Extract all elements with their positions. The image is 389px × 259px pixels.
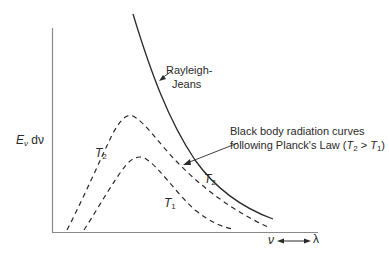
planck-gt: > bbox=[358, 139, 371, 151]
rayleigh-jeans-label: Rayleigh- Jeans bbox=[166, 63, 212, 91]
x-label-lambda: λ bbox=[313, 233, 319, 246]
planck-label-line2: following Planck's Law (T2 > T1) bbox=[230, 138, 385, 152]
rayleigh-jeans-curve bbox=[133, 14, 273, 219]
planck-label-line1: Black body radiation curves bbox=[230, 124, 385, 138]
x-direction-arrow-left bbox=[277, 239, 284, 244]
rayleigh-label-line1: Rayleigh- bbox=[166, 63, 212, 77]
t2-right-sub: 2 bbox=[211, 178, 215, 187]
planck-close: ) bbox=[381, 139, 385, 151]
y-label-tail: dν bbox=[28, 133, 44, 147]
x-label-nu: ν bbox=[268, 234, 274, 247]
planck-prefix: following Planck's Law ( bbox=[230, 139, 346, 151]
planck-T1: T bbox=[370, 139, 377, 151]
rayleigh-label-line2: Jeans bbox=[166, 77, 212, 91]
t1-sub: 1 bbox=[171, 202, 175, 211]
planck-t1-curve bbox=[84, 157, 233, 230]
y-label-E: E bbox=[16, 133, 24, 147]
planck-arrow-head bbox=[183, 159, 191, 165]
t2-left-sub: 2 bbox=[102, 152, 106, 161]
blackbody-diagram: Eν dν Rayleigh- Jeans Black body radiati… bbox=[0, 0, 389, 259]
t1-label: T1 bbox=[164, 197, 176, 210]
x-direction-arrow-right bbox=[304, 239, 311, 244]
t2-right-label: T2 bbox=[204, 173, 216, 186]
t2-left-label: T2 bbox=[95, 147, 107, 160]
y-axis-label: Eν dν bbox=[16, 134, 44, 147]
planck-label: Black body radiation curves following Pl… bbox=[230, 124, 385, 152]
